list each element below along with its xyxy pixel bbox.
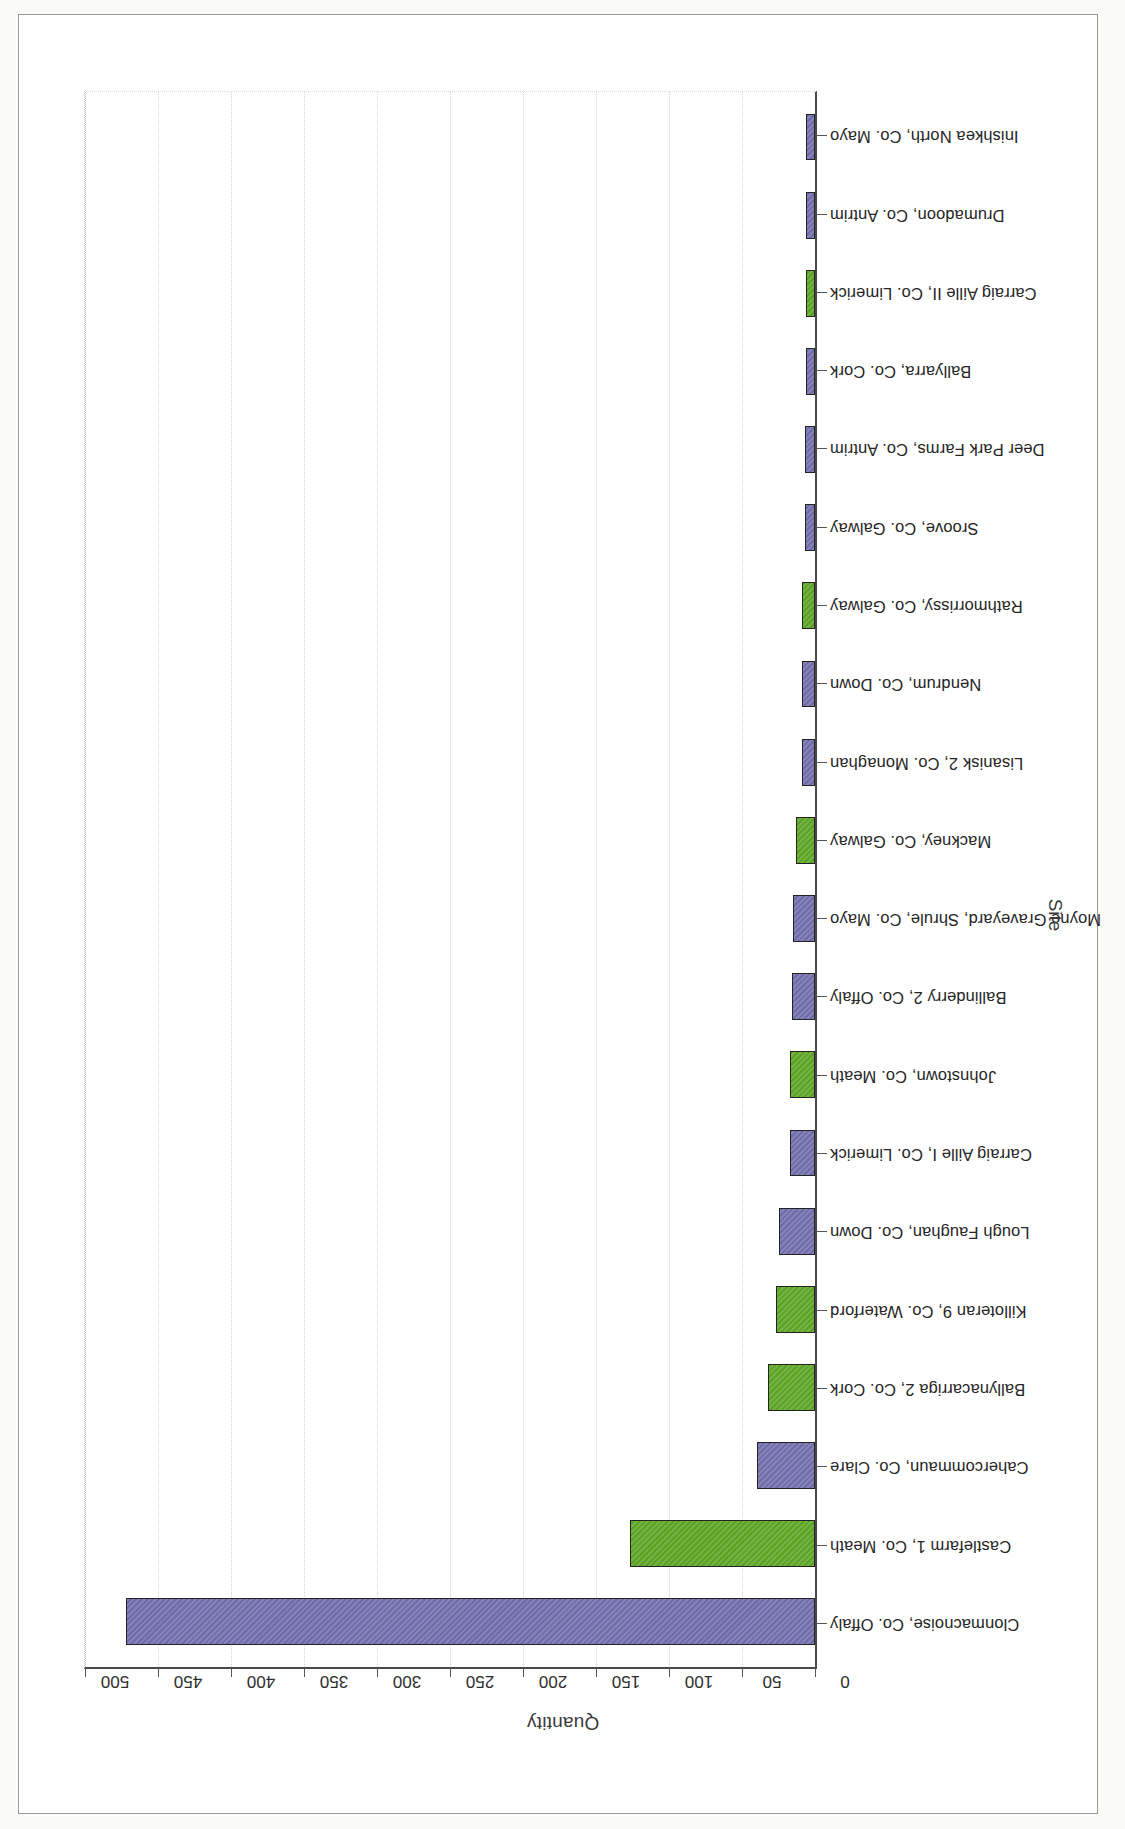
bar-cell — [85, 1035, 815, 1113]
bar — [629, 1520, 814, 1567]
x-axis-tick-labels: Clonmacnoise, Co. OffalyCastlefarm 1, Co… — [830, 91, 1050, 1669]
bar — [125, 1598, 814, 1645]
x-label-cell: Carraig Aille II, Co. Limerick — [830, 253, 1050, 331]
x-label-cell: Lisanisk 2, Co. Monaghan — [830, 723, 1050, 801]
bar-cell — [85, 1504, 815, 1582]
bars-group — [85, 92, 815, 1667]
x-tick — [816, 1114, 828, 1192]
x-tick-label: Lisanisk 2, Co. Monaghan — [830, 753, 1023, 772]
x-label-cell: Inishkea North, Co. Mayo — [830, 97, 1050, 175]
y-tick-label: 350 — [304, 1671, 364, 1691]
x-label-cell: Clonmacnoise, Co. Offaly — [830, 1584, 1050, 1662]
x-tick-label: Deer Park Farms, Co. Antrim — [830, 439, 1045, 458]
bar-cell — [85, 1113, 815, 1191]
bar — [804, 504, 814, 551]
x-label-cell: Lough Faughan, Co. Down — [830, 1193, 1050, 1271]
bar-cell — [85, 176, 815, 254]
x-tick — [816, 175, 828, 253]
bar-cell — [85, 566, 815, 644]
y-tick-label: 250 — [450, 1671, 510, 1691]
y-tick-label: 300 — [377, 1671, 437, 1691]
x-label-cell: Drumadoon, Co. Antrim — [830, 175, 1050, 253]
x-tick-label: Lough Faughan, Co. Down — [830, 1222, 1030, 1241]
x-tick — [816, 566, 828, 644]
bar — [801, 582, 814, 629]
y-axis-title: Quantity — [526, 1711, 598, 1733]
bar-cell — [85, 410, 815, 488]
bar-cell — [85, 254, 815, 332]
x-label-cell: Ballyarra, Co. Cork — [830, 331, 1050, 409]
chart-inner: Quantity 050100150200250300350400450500 … — [58, 65, 1068, 1765]
bar — [806, 191, 815, 238]
x-label-cell: Moyne Graveyard, Shrule, Co. Mayo — [830, 880, 1050, 958]
x-tick — [816, 97, 828, 175]
bar — [804, 426, 814, 473]
x-tick — [816, 1428, 828, 1506]
y-tick-label: 150 — [596, 1671, 656, 1691]
bar-cell — [85, 723, 815, 801]
x-tick-label: Ballynacarriga 2, Co. Cork — [830, 1379, 1025, 1398]
x-tick — [816, 253, 828, 331]
x-tick-label: Cahercommaun, Co. Clare — [830, 1457, 1029, 1476]
bar — [806, 113, 815, 160]
x-tick — [816, 801, 828, 879]
x-tick-label: Clonmacnoise, Co. Offaly — [830, 1614, 1019, 1633]
y-tick-label: 200 — [523, 1671, 583, 1691]
y-tick-label: 400 — [231, 1671, 291, 1691]
x-tick-label: Johnstown, Co. Meath — [830, 1066, 996, 1085]
x-axis-ticks — [816, 91, 828, 1669]
x-tick-label: Rathmorrissy, Co. Galway — [830, 596, 1023, 615]
x-label-cell: Mackney, Co. Galway — [830, 801, 1050, 879]
bar-cell — [85, 879, 815, 957]
bar-cell — [85, 488, 815, 566]
x-tick-label: Ballinderry 2, Co. Offaly — [830, 987, 1006, 1006]
x-tick — [816, 723, 828, 801]
x-label-cell: Deer Park Farms, Co. Antrim — [830, 410, 1050, 488]
x-tick — [816, 1349, 828, 1427]
x-tick-label: Sroove, Co. Galway — [830, 518, 979, 537]
x-tick — [816, 331, 828, 409]
plot-area: 050100150200250300350400450500 — [84, 91, 817, 1669]
y-tick-label: 450 — [158, 1671, 218, 1691]
scanned-page: Quantity 050100150200250300350400450500 … — [0, 0, 1125, 1829]
bar — [775, 1285, 814, 1332]
x-tick — [816, 1584, 828, 1662]
x-label-cell: Cahercommaun, Co. Clare — [830, 1428, 1050, 1506]
x-tick-label: Mackney, Co. Galway — [830, 831, 991, 850]
x-label-cell: Rathmorrissy, Co. Galway — [830, 566, 1050, 644]
x-tick-label: Killoteran 9, Co. Waterford — [830, 1301, 1027, 1320]
bar-cell — [85, 801, 815, 879]
bar — [790, 1051, 815, 1098]
bar — [806, 347, 815, 394]
bar-cell — [85, 1270, 815, 1348]
x-tick — [816, 1506, 828, 1584]
y-tick-label: 0 — [815, 1671, 875, 1691]
x-axis-title: Site — [1044, 65, 1066, 1765]
x-tick-label: Carraig Aille II, Co. Limerick — [830, 283, 1037, 302]
bar — [790, 1129, 815, 1176]
bar-cell — [85, 644, 815, 722]
bar-cell — [85, 957, 815, 1035]
x-tick-label: Ballyarra, Co. Cork — [830, 361, 971, 380]
bar-cell — [85, 332, 815, 410]
bar — [778, 1207, 815, 1254]
x-label-cell: Nendrum, Co. Down — [830, 645, 1050, 723]
x-tick — [816, 880, 828, 958]
bar-chart-figure: Quantity 050100150200250300350400450500 … — [58, 65, 1068, 1765]
y-tick-label: 500 — [85, 1671, 145, 1691]
x-tick — [816, 1193, 828, 1271]
x-tick — [816, 1036, 828, 1114]
x-label-cell: Ballinderry 2, Co. Offaly — [830, 958, 1050, 1036]
x-tick-label: Carraig Aille I, Co. Limerick — [830, 1144, 1032, 1163]
bar-cell — [85, 1582, 815, 1660]
bar — [806, 269, 815, 316]
x-tick — [816, 645, 828, 723]
bar — [796, 816, 815, 863]
bar — [801, 660, 814, 707]
x-label-cell: Sroove, Co. Galway — [830, 488, 1050, 566]
bar — [768, 1364, 815, 1411]
bar — [791, 973, 814, 1020]
bar — [756, 1442, 814, 1489]
bar-cell — [85, 1426, 815, 1504]
x-tick-label: Inishkea North, Co. Mayo — [830, 126, 1019, 145]
